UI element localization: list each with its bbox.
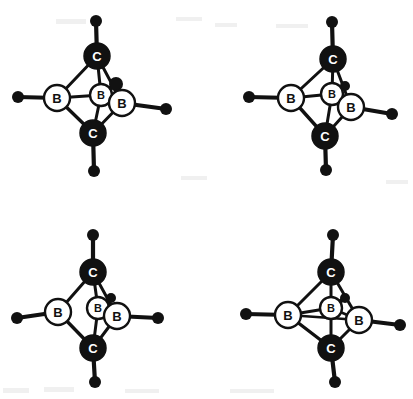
- terminal-atom: [87, 229, 99, 241]
- structure-bottom-right: BCBBC: [240, 229, 406, 388]
- atom-label: B: [94, 302, 102, 314]
- atom-b: B: [278, 85, 304, 111]
- cage-atoms: BCBBC: [44, 43, 135, 146]
- atom-label: B: [283, 308, 292, 323]
- scan-speckle: [386, 180, 408, 184]
- scan-speckle: [230, 389, 274, 393]
- terminal-atom: [327, 229, 339, 241]
- atom-c: C: [312, 123, 338, 149]
- terminal-atom: [386, 108, 398, 120]
- structure-top-right: BCBBC: [243, 16, 398, 176]
- terminal-atom: [243, 91, 255, 103]
- terminal-atom: [160, 103, 172, 115]
- atom-b: B: [44, 85, 70, 111]
- atom-c: C: [80, 335, 106, 361]
- atom-label: B: [327, 302, 335, 314]
- atom-b: B: [45, 299, 71, 325]
- atom-c: C: [80, 259, 106, 285]
- scan-speckle: [56, 19, 86, 24]
- atom-label: B: [286, 91, 295, 106]
- atom-label: C: [326, 341, 336, 356]
- scan-speckle: [276, 24, 308, 28]
- atom-label: C: [328, 52, 338, 67]
- terminal-atom: [394, 319, 406, 331]
- figure-canvas: BCBBCBCBBCBCBBCBCBBC: [0, 0, 413, 399]
- scan-speckle: [181, 176, 207, 180]
- atom-c: C: [318, 335, 344, 361]
- structure-bottom-left: BCBBC: [11, 229, 164, 388]
- terminal-atom: [11, 312, 23, 324]
- atom-label: B: [112, 309, 121, 324]
- cage-atoms: BCBBC: [45, 259, 130, 361]
- atom-label: C: [326, 265, 336, 280]
- terminal-atom: [88, 165, 100, 177]
- terminal-atom: [90, 15, 102, 27]
- scan-speckle: [215, 23, 237, 27]
- terminal-atom: [12, 91, 24, 103]
- cage-atoms: BCBBC: [278, 46, 364, 149]
- atom-label: C: [88, 126, 98, 141]
- atom-c: C: [320, 46, 346, 72]
- terminal-atom: [320, 164, 332, 176]
- atom-label: C: [320, 129, 330, 144]
- atom-label: C: [88, 265, 98, 280]
- atom-b: B: [104, 303, 130, 329]
- atom-label: B: [354, 313, 363, 328]
- scan-speckle: [44, 387, 74, 392]
- terminal-atom: [326, 16, 338, 28]
- atom-b: B: [320, 297, 342, 319]
- scan-artifacts: [3, 17, 408, 393]
- terminal-atom: [329, 376, 341, 388]
- atom-c: C: [84, 43, 110, 69]
- atom-b: B: [109, 90, 135, 116]
- atom-label: B: [97, 89, 105, 101]
- terminal-atom: [152, 312, 164, 324]
- scan-speckle: [3, 388, 29, 393]
- atom-label: C: [88, 341, 98, 356]
- cage-atoms: BCBBC: [275, 259, 372, 361]
- atom-label: C: [92, 49, 102, 64]
- terminal-atom: [240, 308, 252, 320]
- terminal-atom: [340, 293, 350, 303]
- atom-label: B: [52, 91, 61, 106]
- atom-label: B: [328, 88, 336, 100]
- atom-b: B: [275, 302, 301, 328]
- atom-label: B: [53, 305, 62, 320]
- structure-top-left: BCBBC: [12, 15, 172, 177]
- atom-c: C: [318, 259, 344, 285]
- terminal-atom: [89, 376, 101, 388]
- atom-label: B: [346, 100, 355, 115]
- scan-speckle: [125, 389, 159, 393]
- atom-b: B: [346, 307, 372, 333]
- atom-c: C: [80, 120, 106, 146]
- atom-b: B: [338, 94, 364, 120]
- atom-label: B: [117, 96, 126, 111]
- scan-speckle: [176, 17, 202, 21]
- molecular-structure-figure: BCBBCBCBBCBCBBCBCBBC: [0, 0, 413, 399]
